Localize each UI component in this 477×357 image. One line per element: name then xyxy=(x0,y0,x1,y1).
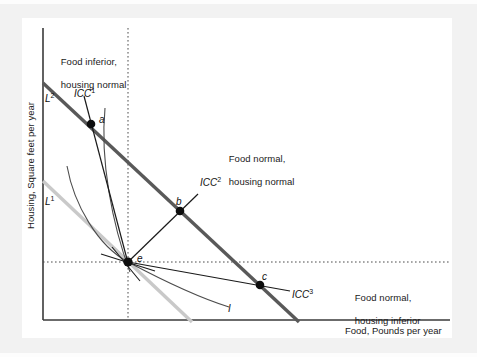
budget-line-2-label: L2 xyxy=(45,92,54,104)
budget-line-2-label-sup: 2 xyxy=(51,92,55,99)
region-label-line-2: housing normal xyxy=(229,176,295,187)
point-c-label: c xyxy=(262,271,267,282)
indifference-curve-label: I xyxy=(228,303,231,314)
icc-2-line xyxy=(128,194,198,262)
region-label-line-1: Food normal, xyxy=(355,292,412,303)
point-b-label: b xyxy=(176,196,182,207)
y-axis-title: Housing, Square feet per year xyxy=(25,76,36,256)
icc-1-label-base: ICC xyxy=(74,88,91,99)
region-label-line-1: Food normal, xyxy=(229,153,286,164)
point-a-marker xyxy=(87,120,96,129)
budget-line-1-label: L1 xyxy=(45,195,54,207)
icc-1-label-sup: 1 xyxy=(91,87,95,94)
budget-line-1-label-sup: 1 xyxy=(51,195,55,202)
icc-3-label-base: ICC xyxy=(292,289,309,300)
icc-2-label-sup: 2 xyxy=(217,176,221,183)
point-e-label: e xyxy=(137,253,143,264)
point-e-marker xyxy=(123,257,132,266)
region-label-food-normal-housing-inferior: Food normal, housing inferior xyxy=(344,280,421,338)
region-label-line-2: housing inferior xyxy=(355,315,421,326)
icc-3-label-sup: 3 xyxy=(309,288,313,295)
point-b-marker xyxy=(176,207,185,216)
icc-1-label: ICC1 xyxy=(74,87,95,99)
region-label-line-1: Food inferior, xyxy=(61,56,117,67)
icc-2-label: ICC2 xyxy=(200,176,221,188)
point-a-label: a xyxy=(99,114,105,125)
icc-3-label: ICC3 xyxy=(292,288,313,300)
icc-2-label-base: ICC xyxy=(200,177,217,188)
region-label-food-normal-housing-normal: Food normal, housing normal xyxy=(218,141,294,199)
figure-root: Housing, Square feet per year Food, Poun… xyxy=(0,0,477,357)
indifference-curve-label-base: I xyxy=(228,303,231,314)
